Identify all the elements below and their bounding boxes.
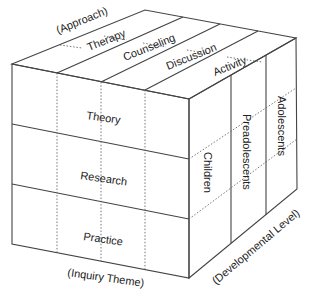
theme-item-practice: Practice — [83, 230, 124, 247]
axis-label-approach: (Approach) — [54, 4, 109, 36]
axis-label-developmental-level: (Developmental Level) — [210, 207, 302, 287]
level-item-preadolescents: Preadolescents — [241, 114, 253, 190]
axis-label-inquiry-theme: (Inquiry Theme) — [67, 266, 145, 289]
approach-item-therapy: Therapy — [85, 26, 127, 52]
top-face — [12, 10, 296, 99]
theme-item-theory: Theory — [86, 109, 122, 126]
level-item-children: Children — [202, 152, 214, 193]
approach-item-activity: Activity — [211, 53, 248, 77]
theme-item-research: Research — [80, 169, 128, 187]
cube-diagram: (Approach) Therapy Counseling Discussion… — [0, 0, 310, 299]
level-item-adolescents: Adolescents — [276, 96, 288, 156]
